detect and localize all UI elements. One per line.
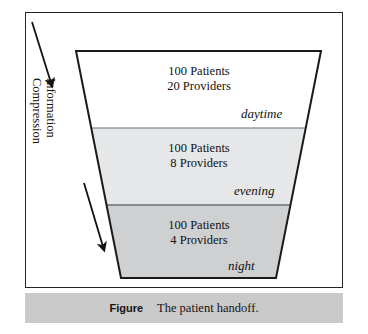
caption-label: Figure [109, 302, 143, 314]
evening-patients: 100 Patients [168, 141, 229, 155]
daytime-patients: 100 Patients [168, 64, 229, 78]
night-providers: 4 Providers [139, 233, 259, 248]
funnel-band-evening-text: 100 Patients 8 Providers [139, 141, 259, 171]
funnel-time-label-night: night [228, 258, 255, 274]
funnel-time-label-evening: evening [234, 183, 274, 199]
daytime-providers: 20 Providers [139, 79, 259, 94]
funnel-time-label-daytime: daytime [241, 106, 282, 122]
evening-providers: 8 Providers [139, 156, 259, 171]
caption-text: The patient handoff. [157, 301, 258, 316]
compression-label-line-2: Compression [30, 78, 44, 198]
funnel-band-night-text: 100 Patients 4 Providers [139, 218, 259, 248]
funnel-band-daytime-text: 100 Patients 20 Providers [139, 64, 259, 94]
night-patients: 100 Patients [168, 218, 229, 232]
night-label-text: night [228, 258, 255, 273]
figure-caption-bar: Figure The patient handoff. [25, 293, 343, 323]
information-compression-label: Information Compression [30, 78, 58, 198]
compression-label-line-1: Information [44, 78, 58, 198]
daytime-label-text: daytime [241, 106, 282, 121]
evening-label-text: evening [234, 183, 274, 198]
figure-page: Information Compression 100 Patients 20 … [0, 0, 368, 334]
